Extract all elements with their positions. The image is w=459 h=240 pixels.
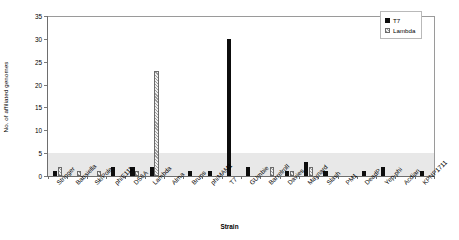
y-axis-tick-label: 10	[22, 127, 42, 134]
x-axis-tick-mark	[280, 176, 281, 179]
y-axis-tick-mark	[44, 107, 47, 108]
x-axis-tick-mark	[183, 176, 184, 179]
x-axis-tick-mark	[395, 176, 396, 179]
x-axis-tick-mark	[67, 176, 68, 179]
plot-right-border	[434, 16, 435, 177]
bar-t7-bruns	[188, 171, 192, 176]
y-axis-tick-mark	[44, 130, 47, 131]
bar-lambda-stringer	[58, 167, 62, 176]
bar-t7-phie111	[111, 167, 115, 176]
bar-group	[338, 16, 357, 176]
legend-item-lambda: Lambda	[385, 25, 415, 35]
bar-group	[164, 16, 183, 176]
x-axis-tick-label: T7	[228, 176, 238, 186]
bar-t7-stringer	[53, 171, 57, 176]
bar-t7-kpnp1711	[420, 171, 424, 176]
bar-t7-slash	[323, 171, 327, 176]
bar-lambda-davies	[290, 171, 294, 176]
x-axis-tick-mark	[164, 176, 165, 179]
x-axis-tick-mark	[357, 176, 358, 179]
y-axis-tick-label: 15	[22, 104, 42, 111]
filled-square-icon	[385, 18, 390, 23]
bar-group	[145, 16, 164, 176]
y-axis-tick-mark	[44, 62, 47, 63]
bar-group	[299, 16, 318, 176]
x-axis-tick-mark	[202, 176, 203, 179]
bar-chart: No. of affiliated genomes 05101520253035…	[0, 0, 459, 240]
bar-group	[241, 16, 260, 176]
y-axis-tick-label: 25	[22, 58, 42, 65]
y-axis-tick-mark	[44, 16, 47, 17]
y-axis-tick-mark	[44, 39, 47, 40]
y-axis-tick-labels: 05101520253035	[22, 13, 42, 177]
bar-group	[202, 16, 221, 176]
bar-group	[67, 16, 86, 176]
bar-t7-lambda	[150, 167, 154, 176]
bar-group	[357, 16, 376, 176]
x-axis-tick-mark	[260, 176, 261, 179]
x-axis-tick-mark	[415, 176, 416, 179]
bar-group	[222, 16, 241, 176]
bar-lambda-barrelroll	[270, 167, 274, 176]
bar-t7-yep-phi	[381, 167, 385, 176]
y-axis-tick-mark	[44, 176, 47, 177]
x-axis-tick-mark	[222, 176, 223, 179]
bar-group	[183, 16, 202, 176]
x-axis-tick-mark	[145, 176, 146, 179]
x-axis-tick-mark	[87, 176, 88, 179]
y-axis-title: No. of affiliated genomes	[2, 42, 9, 152]
x-axis-tick-mark	[299, 176, 300, 179]
legend-label-lambda: Lambda	[393, 27, 415, 34]
bar-t7-phimam1	[208, 171, 212, 176]
chart-legend: T7 Lambda	[380, 11, 422, 39]
bar-group	[106, 16, 125, 176]
bar-group	[87, 16, 106, 176]
hatched-square-icon	[385, 28, 390, 33]
bar-group	[415, 16, 434, 176]
bar-t7-deadp	[362, 171, 366, 176]
plot-area	[48, 16, 434, 176]
x-axis-tick-mark	[434, 176, 435, 179]
bar-lambda-skipole	[97, 171, 101, 176]
bar-lambda-lambda	[154, 71, 158, 176]
x-axis-tick-mark	[48, 176, 49, 179]
bar-group	[318, 16, 337, 176]
y-axis-tick-label: 35	[22, 13, 42, 20]
bar-group	[376, 16, 395, 176]
bar-group	[48, 16, 67, 176]
legend-label-t7: T7	[393, 17, 400, 24]
x-axis-tick-mark	[318, 176, 319, 179]
y-axis-tick-label: 5	[22, 150, 42, 157]
legend-item-t7: T7	[385, 15, 415, 25]
x-axis-tick-mark	[376, 176, 377, 179]
x-axis-tick-mark	[241, 176, 242, 179]
bar-group	[395, 16, 414, 176]
bar-lambda-maynard	[309, 167, 313, 176]
y-axis-tick-label: 20	[22, 81, 42, 88]
x-axis-title: Strain	[0, 223, 459, 230]
bar-lambda-ds6a	[135, 171, 139, 176]
bar-t7-davies	[285, 171, 289, 176]
bar-t7-gumbie	[246, 167, 250, 176]
bar-t7-t7	[227, 39, 231, 176]
x-axis-tick-mark	[338, 176, 339, 179]
bar-t7-ds6a	[130, 167, 134, 176]
x-axis-tick-mark	[106, 176, 107, 179]
y-axis-tick-mark	[44, 153, 47, 154]
bar-group	[260, 16, 279, 176]
bar-t7-maynard	[304, 162, 308, 176]
y-axis-tick-label: 0	[22, 173, 42, 180]
bar-group	[280, 16, 299, 176]
bar-group	[125, 16, 144, 176]
bar-lambda-babsiella	[77, 171, 81, 176]
y-axis-tick-label: 30	[22, 35, 42, 42]
x-axis-tick-mark	[125, 176, 126, 179]
y-axis-tick-mark	[44, 85, 47, 86]
